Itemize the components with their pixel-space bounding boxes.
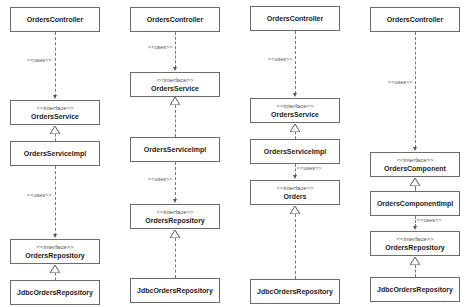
class-jdbc-orders-repository[interactable]: JdbcOrdersRepository xyxy=(130,278,220,303)
dependency-line xyxy=(295,31,296,94)
class-orders-service-impl[interactable]: OrdersServiceImpl xyxy=(130,137,220,162)
class-name: JdbcOrdersRepository xyxy=(377,285,453,294)
open-arrow-icon xyxy=(173,67,177,71)
interface-orders-repository[interactable]: <<interface>> OrdersRepository xyxy=(370,231,460,256)
class-name: OrdersController xyxy=(147,15,203,24)
realization-triangle-icon xyxy=(410,257,420,265)
class-orders-controller[interactable]: OrdersController xyxy=(130,7,220,32)
realization-triangle-icon xyxy=(170,97,180,105)
interface-orders-service[interactable]: <<interface>> OrdersService xyxy=(250,98,340,123)
dependency-line xyxy=(55,166,56,236)
uses-label: <<uses>> xyxy=(27,192,51,198)
dependency-line xyxy=(55,32,56,97)
open-arrow-icon xyxy=(413,226,417,230)
class-name: OrdersService xyxy=(31,112,79,121)
stereotype: <<interface>> xyxy=(156,77,193,84)
stereotype: <<interface>> xyxy=(276,103,313,110)
interface-orders-repository[interactable]: <<interface>> OrdersRepository xyxy=(10,239,100,264)
class-name: OrdersService xyxy=(271,110,319,119)
realization-line xyxy=(55,273,56,280)
open-arrow-icon xyxy=(413,147,417,151)
class-jdbc-orders-repository[interactable]: JdbcOrdersRepository xyxy=(370,277,460,302)
class-jdbc-orders-repository[interactable]: JdbcOrdersRepository xyxy=(10,280,100,305)
realization-triangle-icon xyxy=(290,206,300,214)
class-name: OrdersComponent xyxy=(384,164,446,173)
uses-label: <<uses>> xyxy=(148,44,172,50)
open-arrow-icon xyxy=(173,199,177,203)
dependency-line xyxy=(175,162,176,200)
realization-triangle-icon xyxy=(50,126,60,134)
class-name: JdbcOrdersRepository xyxy=(17,288,93,297)
open-arrow-icon xyxy=(293,93,297,97)
stereotype: <<interface>> xyxy=(396,236,433,243)
interface-orders-repository[interactable]: <<interface>> OrdersRepository xyxy=(130,204,220,229)
class-name: OrdersComponentImpl xyxy=(377,199,453,208)
realization-line xyxy=(415,265,416,277)
class-jdbc-orders-repository[interactable]: JdbcOrdersRepository xyxy=(250,279,340,304)
realization-line xyxy=(295,214,296,279)
stereotype: <<interface>> xyxy=(36,244,73,251)
class-name: OrdersRepository xyxy=(25,251,85,260)
class-orders-service-impl[interactable]: OrdersServiceImpl xyxy=(250,139,340,164)
uses-label: <<uses>> xyxy=(27,57,51,63)
class-name: OrdersController xyxy=(387,15,443,24)
class-name: OrdersService xyxy=(151,84,199,93)
class-name: OrdersRepository xyxy=(145,216,205,225)
class-name: OrdersServiceImpl xyxy=(264,147,326,156)
realization-line xyxy=(175,105,176,137)
realization-triangle-icon xyxy=(410,178,420,186)
class-orders-component-impl[interactable]: OrdersComponentImpl xyxy=(370,191,460,216)
class-name: JdbcOrdersRepository xyxy=(137,286,213,295)
uses-label: <<uses>> xyxy=(268,56,292,62)
stereotype: <<interface>> xyxy=(396,157,433,164)
class-name: Orders xyxy=(284,192,307,201)
interface-orders-service[interactable]: <<interface>> OrdersService xyxy=(10,100,100,125)
class-name: JdbcOrdersRepository xyxy=(257,287,333,296)
interface-orders-service[interactable]: <<interface>> OrdersService xyxy=(130,72,220,97)
stereotype: <<interface>> xyxy=(36,105,73,112)
realization-line xyxy=(55,134,56,141)
realization-line xyxy=(295,132,296,139)
realization-triangle-icon xyxy=(170,230,180,238)
open-arrow-icon xyxy=(53,234,57,238)
class-name: OrdersController xyxy=(27,15,83,24)
class-orders-controller[interactable]: OrdersController xyxy=(10,7,100,32)
class-orders-controller[interactable]: OrdersController xyxy=(370,7,460,32)
realization-triangle-icon xyxy=(290,124,300,132)
stereotype: <<interface>> xyxy=(156,209,193,216)
class-name: OrdersServiceImpl xyxy=(24,149,86,158)
interface-orders[interactable]: <<interface>> Orders xyxy=(250,180,340,205)
dependency-line xyxy=(415,32,416,148)
class-name: OrdersController xyxy=(267,14,323,23)
class-name: OrdersServiceImpl xyxy=(144,145,206,154)
interface-orders-component[interactable]: <<interface>> OrdersComponent xyxy=(370,152,460,177)
open-arrow-icon xyxy=(293,175,297,179)
uses-label: <<uses>> xyxy=(417,217,441,223)
open-arrow-icon xyxy=(53,95,57,99)
class-orders-controller[interactable]: OrdersController xyxy=(250,6,340,31)
class-name: OrdersRepository xyxy=(385,243,445,252)
class-orders-service-impl[interactable]: OrdersServiceImpl xyxy=(10,141,100,166)
stereotype: <<interface>> xyxy=(276,185,313,192)
uses-label: <<uses>> xyxy=(297,165,321,171)
realization-line xyxy=(175,238,176,278)
uses-label: <<uses>> xyxy=(388,79,412,85)
dependency-line xyxy=(175,32,176,68)
uses-label: <<uses>> xyxy=(148,176,172,182)
realization-triangle-icon xyxy=(50,265,60,273)
